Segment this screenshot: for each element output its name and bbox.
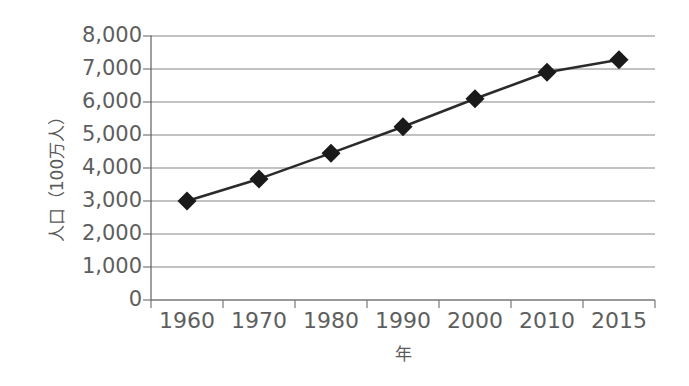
x-tick-label: 1970 xyxy=(223,306,295,338)
x-tick-label: 2015 xyxy=(583,306,655,338)
x-tick-label: 1990 xyxy=(367,306,439,338)
data-point-marker xyxy=(466,89,485,108)
x-tick-label: 2000 xyxy=(439,306,511,338)
gridlines xyxy=(151,36,655,267)
x-axis-title: 年 xyxy=(151,340,655,365)
data-point-marker xyxy=(538,63,557,82)
line-chart: 人口（100万人） 01,0002,0003,0004,0005,0006,00… xyxy=(0,0,689,386)
x-tick-label: 1980 xyxy=(295,306,367,338)
data-point-marker xyxy=(178,192,197,211)
series-markers xyxy=(178,50,629,210)
data-point-marker xyxy=(394,117,413,136)
data-point-marker xyxy=(610,50,629,69)
data-point-marker xyxy=(250,169,269,188)
x-tick-label: 2010 xyxy=(511,306,583,338)
data-point-marker xyxy=(322,144,341,163)
x-axis-tick-labels: 1960197019801990200020102015 xyxy=(151,306,655,338)
x-tick-label: 1960 xyxy=(151,306,223,338)
